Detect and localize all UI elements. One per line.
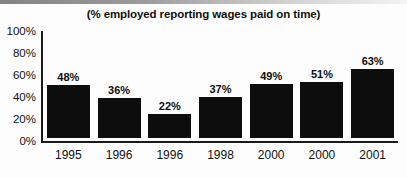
bar-value-label: 36% [88,84,151,96]
bar [98,98,141,138]
x-axis-tick-labels: 1995199619961998200020002001 [43,148,398,168]
y-axis-tick-labels: 0%20%40%60%80%100% [0,26,36,150]
bar [199,97,242,138]
bar-group: 49% [250,31,293,141]
bar [351,69,394,138]
bar [148,114,191,138]
bar-value-label: 48% [37,71,100,83]
scan-artifact-band [0,0,407,4]
y-axis-tick-label: 80% [0,47,36,60]
x-axis-tick-label: 2000 [244,148,299,163]
x-axis-tick-label: 1996 [92,148,147,163]
bar [300,82,343,138]
bar-group: 48% [47,31,90,141]
y-axis-tick-label: 0% [0,135,36,148]
chart-title: (% employed reporting wages paid on time… [0,8,407,20]
bar-group: 63% [351,31,394,141]
bar [250,84,293,138]
bar [47,85,90,138]
bar-chart-figure: (% employed reporting wages paid on time… [0,0,407,178]
bar-group: 37% [199,31,242,141]
bar-group: 51% [300,31,343,141]
bar-value-label: 63% [341,55,404,67]
bar-group: 22% [148,31,191,141]
x-axis-tick-label: 1995 [41,148,96,163]
plot-area: 48%36%22%37%49%51%63% [43,31,398,141]
y-axis-tick-label: 60% [0,69,36,82]
bar-group: 36% [98,31,141,141]
x-axis-tick-label: 1996 [142,148,197,163]
y-axis-tick-label: 100% [0,25,36,38]
y-axis-tick-label: 20% [0,113,36,126]
bar-value-label: 37% [189,83,252,95]
x-axis-tick-label: 1998 [193,148,248,163]
x-axis-line [41,141,398,143]
bar-value-label: 22% [138,100,201,112]
bar-value-label: 51% [290,68,353,80]
x-axis-tick-label: 2000 [294,148,349,163]
x-axis-tick-label: 2001 [345,148,400,163]
y-axis-tick-label: 40% [0,91,36,104]
